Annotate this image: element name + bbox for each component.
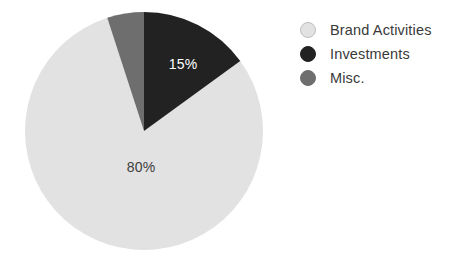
legend-item-investments[interactable]: Investments: [300, 42, 450, 66]
legend-label-misc: Misc.: [330, 70, 365, 86]
legend-item-misc[interactable]: Misc.: [300, 66, 450, 90]
legend-swatch-brand-activities-icon: [300, 22, 316, 38]
pie-chart-figure: 15% 80% Brand Activities Investments Mis…: [0, 0, 456, 256]
pie-label-investments: 15%: [169, 56, 198, 72]
legend-swatch-misc-icon: [300, 70, 316, 86]
legend-label-investments: Investments: [330, 46, 410, 62]
pie-label-brand-activities: 80%: [127, 159, 156, 175]
legend-item-brand-activities[interactable]: Brand Activities: [300, 18, 450, 42]
legend-label-brand-activities: Brand Activities: [330, 22, 432, 38]
chart-legend: Brand Activities Investments Misc.: [300, 18, 450, 90]
legend-swatch-investments-icon: [300, 46, 316, 62]
pie-slices: [25, 12, 263, 250]
